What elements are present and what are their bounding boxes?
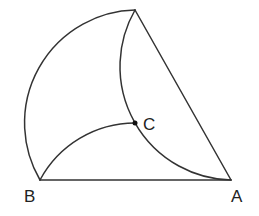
middle-arc-tca [120,10,231,180]
label-c: C [143,115,155,134]
inner-arc-bc [40,123,135,180]
segment-ta [135,10,231,180]
geometry-diagram: B A C [0,0,259,216]
point-c-dot [133,121,138,126]
outer-arc [25,10,135,180]
label-b: B [24,187,35,206]
label-a: A [231,187,243,206]
